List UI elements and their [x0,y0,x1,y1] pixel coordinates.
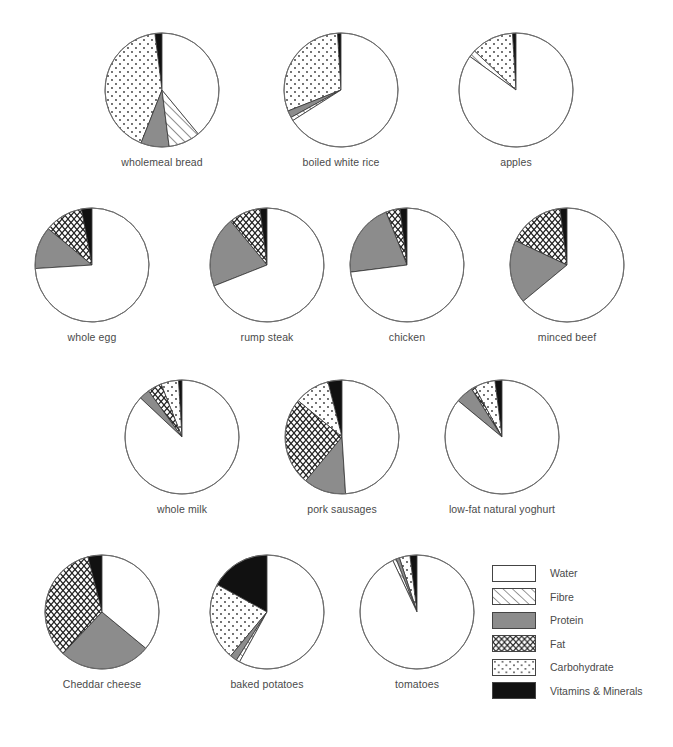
legend-item-vitamins: Vitamins & Minerals [492,681,667,701]
legend-swatch-carbohydrate [492,659,536,676]
pie-graphic [507,205,627,325]
chart-legend: WaterFibreProteinFatCarbohydrateVitamins… [492,563,667,704]
legend-swatch-water [492,565,536,582]
legend-swatch-vitamins [492,682,536,699]
pie-chart-label: chicken [347,331,467,343]
legend-label: Protein [550,614,583,626]
pie-chart-label: rump steak [207,331,327,343]
pie-chart-whole-egg: whole egg [32,205,152,343]
pie-slice-water [342,380,399,494]
legend-item-water: Water [492,563,667,583]
pie-chart-boiled-white-rice: boiled white rice [281,30,401,168]
legend-swatch-fibre [492,588,536,605]
pie-graphic [207,205,327,325]
pie-chart-tomatoes: tomatoes [357,552,477,690]
legend-label: Water [550,567,578,579]
pie-graphic [207,552,327,672]
pie-chart-label: whole milk [122,503,242,515]
legend-swatch-protein [492,612,536,629]
legend-label: Fibre [550,591,574,603]
nutrient-composition-pie-grid: wholemeal breadboiled white riceappleswh… [0,0,673,747]
pie-chart-wholemeal-bread: wholemeal bread [102,30,222,168]
pie-graphic [282,377,402,497]
legend-item-protein: Protein [492,610,667,630]
pie-svg [32,205,152,325]
pie-chart-label: apples [456,156,576,168]
pie-graphic [122,377,242,497]
pie-chart-rump-steak: rump steak [207,205,327,343]
pie-chart-label: baked potatoes [207,678,327,690]
pie-slice-water [360,555,474,669]
pie-graphic [357,552,477,672]
pie-svg [42,552,162,672]
pie-svg [282,377,402,497]
pie-svg [281,30,401,150]
pie-chart-whole-milk: whole milk [122,377,242,515]
pie-svg [357,552,477,672]
pie-chart-chicken: chicken [347,205,467,343]
pie-svg [456,30,576,150]
legend-item-fibre: Fibre [492,587,667,607]
pie-chart-low-fat-natural-yoghurt: low-fat natural yoghurt [442,377,562,515]
legend-item-carbohydrate: Carbohydrate [492,657,667,677]
pie-chart-baked-potatoes: baked potatoes [207,552,327,690]
pie-graphic [281,30,401,150]
pie-svg [207,205,327,325]
pie-chart-label: wholemeal bread [102,156,222,168]
pie-chart-pork-sausages: pork sausages [282,377,402,515]
pie-svg [122,377,242,497]
pie-chart-cheddar-cheese: Cheddar cheese [42,552,162,690]
pie-graphic [347,205,467,325]
legend-label: Vitamins & Minerals [550,685,643,697]
legend-swatch-fat [492,635,536,652]
pie-svg [347,205,467,325]
pie-chart-minced-beef: minced beef [507,205,627,343]
pie-chart-label: whole egg [32,331,152,343]
pie-chart-label: pork sausages [282,503,402,515]
pie-svg [102,30,222,150]
pie-chart-label: Cheddar cheese [42,678,162,690]
pie-graphic [102,30,222,150]
legend-item-fat: Fat [492,634,667,654]
legend-label: Carbohydrate [550,661,614,673]
legend-label: Fat [550,638,565,650]
pie-chart-label: tomatoes [357,678,477,690]
pie-graphic [442,377,562,497]
pie-graphic [42,552,162,672]
pie-graphic [32,205,152,325]
pie-chart-label: low-fat natural yoghurt [442,503,562,515]
pie-graphic [456,30,576,150]
pie-chart-apples: apples [456,30,576,168]
pie-chart-label: minced beef [507,331,627,343]
pie-svg [207,552,327,672]
pie-svg [507,205,627,325]
pie-chart-label: boiled white rice [281,156,401,168]
pie-svg [442,377,562,497]
